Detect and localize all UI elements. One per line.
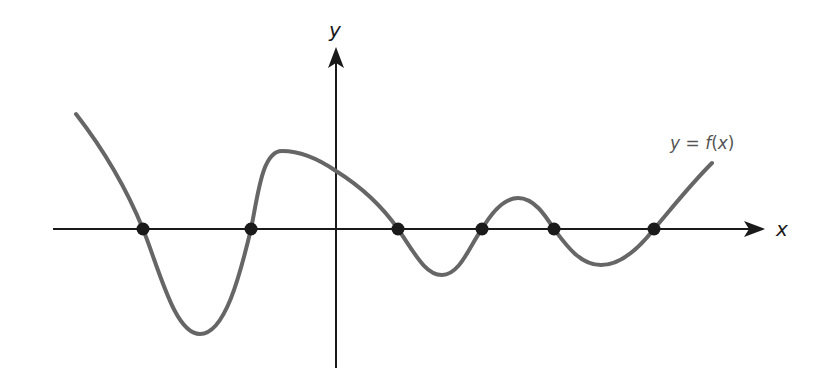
root-marker	[137, 223, 150, 236]
function-graph: y x y = f(x)	[0, 0, 825, 388]
function-label-y: y	[670, 133, 680, 153]
root-marker	[548, 223, 561, 236]
y-axis-label: y	[329, 20, 341, 40]
root-marker	[245, 223, 258, 236]
root-marker	[648, 223, 661, 236]
function-label-equals: =	[680, 133, 705, 153]
root-marker	[392, 223, 405, 236]
x-axis-label: x	[776, 219, 788, 239]
root-marker	[476, 223, 489, 236]
function-label-open-paren: (	[711, 133, 718, 153]
function-label: y = f(x)	[670, 135, 734, 152]
function-label-x: x	[718, 133, 728, 153]
graph-canvas	[0, 0, 825, 388]
function-label-close-paren: )	[728, 133, 735, 153]
